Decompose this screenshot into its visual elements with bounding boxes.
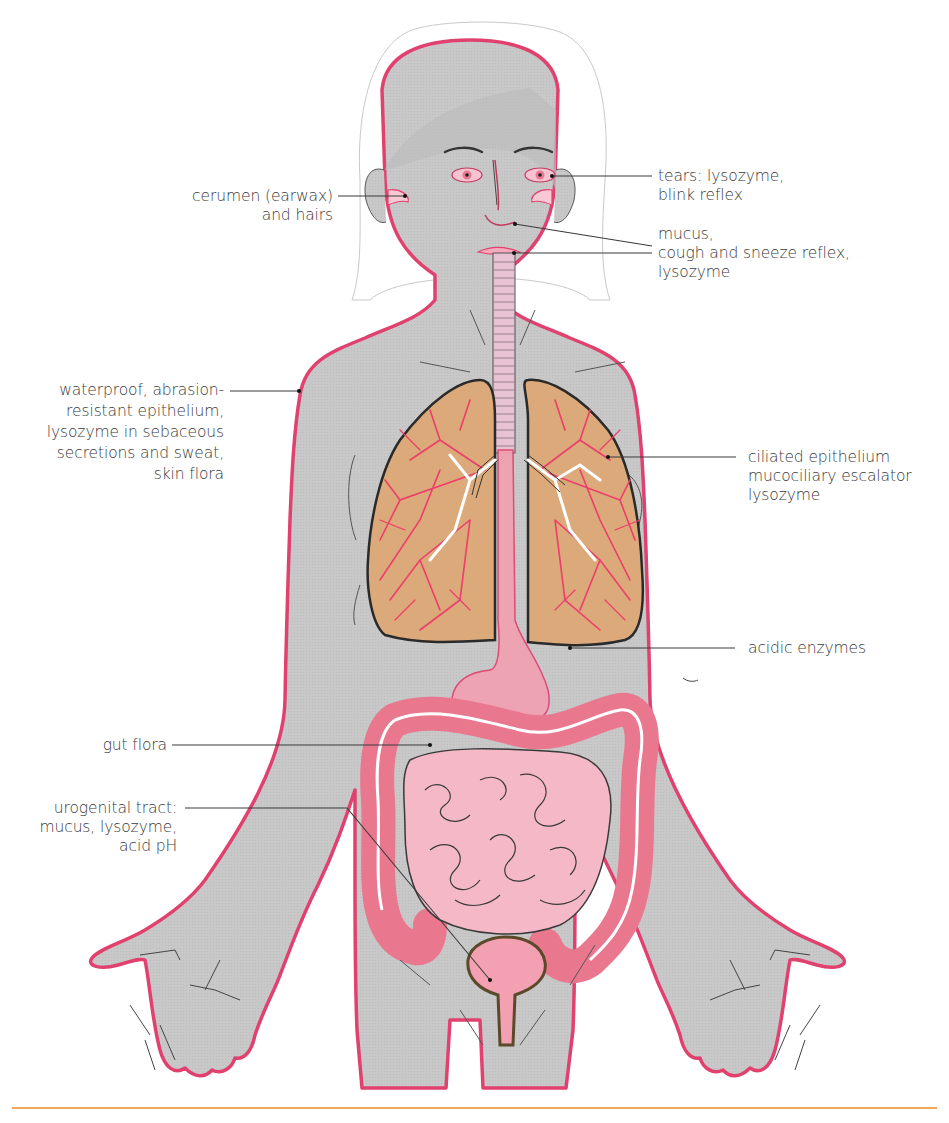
label-nose-mouth-line-2: cough and sneeze reflex,	[658, 244, 850, 263]
label-ear: cerumen (earwax) and hairs	[192, 187, 333, 225]
label-stomach: acidic enzymes	[748, 639, 866, 658]
label-urogenital-line-2: mucus, lysozyme,	[39, 818, 177, 837]
label-skin-line-2: resistant epithelium,	[47, 401, 224, 422]
bottom-rule	[12, 1107, 937, 1109]
label-ear-line-1: cerumen (earwax)	[192, 187, 333, 206]
label-skin-line-3: lysozyme in sebaceous	[47, 422, 224, 443]
trachea	[493, 253, 515, 453]
label-lungs-line-1: ciliated epithelium	[748, 448, 912, 467]
label-nose-mouth-line-3: lysozyme	[658, 263, 850, 282]
label-skin-line-4: secretions and sweat,	[47, 443, 224, 464]
label-eyes-line-1: tears: lysozyme,	[658, 167, 784, 186]
elbow-crease	[683, 678, 698, 681]
label-lungs-line-2: mucociliary escalator	[748, 467, 912, 486]
label-skin-line-1: waterproof, abrasion-	[47, 380, 224, 401]
label-urogenital-line-1: urogenital tract:	[39, 799, 177, 818]
label-skin-line-5: skin flora	[47, 464, 224, 485]
label-nose-mouth-line-1: mucus,	[658, 225, 850, 244]
label-urogenital-line-3: acid pH	[39, 837, 177, 856]
label-eyes-line-2: blink reflex	[658, 186, 784, 205]
label-eyes: tears: lysozyme, blink reflex	[658, 167, 784, 205]
label-gut-line-1: gut flora	[103, 736, 167, 755]
label-lungs-line-3: lysozyme	[748, 486, 912, 505]
label-nose-mouth: mucus, cough and sneeze reflex, lysozyme	[658, 225, 850, 282]
anatomy-figure	[0, 0, 949, 1123]
label-stomach-line-1: acidic enzymes	[748, 639, 866, 658]
label-urogenital: urogenital tract: mucus, lysozyme, acid …	[39, 799, 177, 856]
label-lungs: ciliated epithelium mucociliary escalato…	[748, 448, 912, 505]
label-ear-line-2: and hairs	[192, 206, 333, 225]
label-skin: waterproof, abrasion- resistant epitheli…	[47, 380, 224, 485]
left-eye	[452, 168, 482, 182]
label-gut: gut flora	[103, 736, 167, 755]
small-intestine	[404, 749, 611, 934]
